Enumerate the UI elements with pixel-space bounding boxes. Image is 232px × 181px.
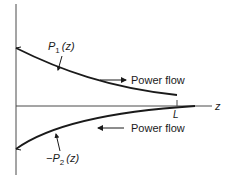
p2-label-subscript: 2 (60, 158, 65, 167)
p1-label: P1(z) (48, 40, 75, 55)
forward-flow-label: Power flow (131, 74, 185, 86)
power-flow-diagram: z L P1(z) −P2(z) Power flow Power flow (0, 0, 232, 181)
backward-flow-label: Power flow (131, 122, 185, 134)
p1-label-subscript: 1 (55, 46, 60, 55)
p2-pointer-arrow (56, 134, 60, 151)
p1-curve (16, 48, 177, 95)
p2-start-mark (16, 149, 21, 150)
horizontal-axis-label: z (214, 100, 221, 112)
p2-label: −P2(z) (46, 152, 79, 167)
length-tick-label: L (173, 109, 179, 120)
p1-label-arg: (z) (62, 40, 75, 52)
p1-start-mark (16, 47, 21, 48)
p2-label-arg: (z) (66, 152, 79, 164)
